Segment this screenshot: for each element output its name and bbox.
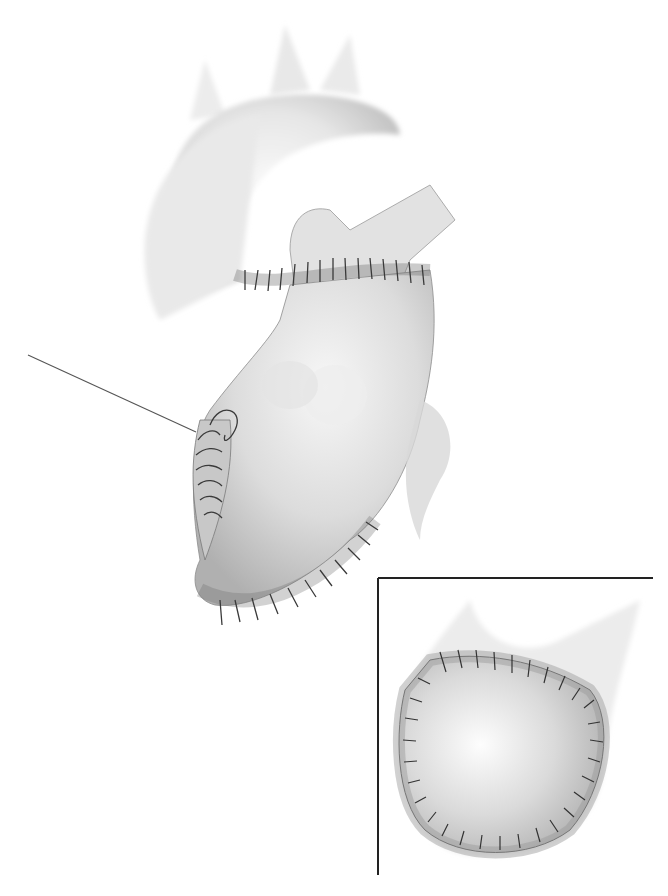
- heart: [193, 270, 450, 606]
- inset-detail-view: [399, 600, 640, 855]
- surgical-illustration: [0, 0, 668, 896]
- annotation-leader-line: [28, 355, 196, 432]
